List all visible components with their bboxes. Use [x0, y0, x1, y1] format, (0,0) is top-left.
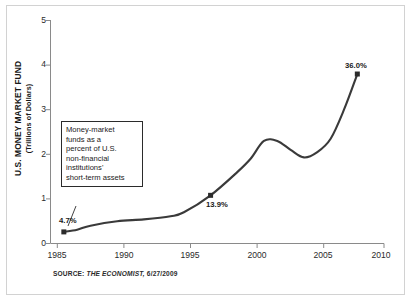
source-date: 6/27/2009 — [147, 270, 178, 277]
chart-figure: U.S. MONEY MARKET FUND (Trillions of Dol… — [0, 0, 411, 300]
annotation-box: Money-market funds as a percent of U.S. … — [61, 121, 143, 187]
data-label-4-7-percent: 4.7% — [59, 216, 77, 225]
annotation-line-4: institutions' — [66, 163, 138, 173]
annotation-line-0: Money-market — [66, 125, 138, 135]
data-marker-1997 — [208, 193, 213, 198]
source-prefix: SOURCE: — [53, 270, 84, 277]
annotation-line-5: short-term assets — [66, 173, 138, 183]
annotation-line-1: funds as a — [66, 135, 138, 145]
annotation-line-3: non-financial — [66, 154, 138, 164]
data-label-13-9-percent: 13.9% — [206, 200, 228, 209]
data-marker-1986 — [61, 229, 66, 234]
data-label-36-0-percent: 36.0% — [345, 61, 367, 70]
source-publication: THE ECONOMIST, — [86, 270, 144, 277]
annotation-line-2: percent of U.S. — [66, 144, 138, 154]
source-note: SOURCE: THE ECONOMIST, 6/27/2009 — [53, 270, 178, 277]
data-marker-2008 — [355, 72, 360, 77]
